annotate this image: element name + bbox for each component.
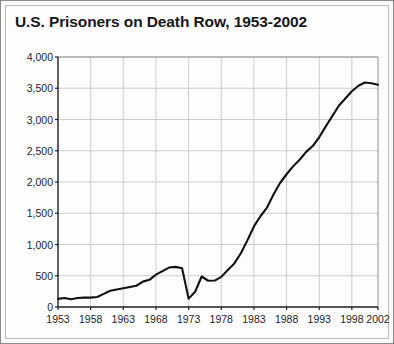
y-axis-tick-label: 1,500	[27, 207, 53, 219]
x-axis-tick-label: 1958	[79, 313, 102, 325]
x-axis-tick-label: 1988	[275, 313, 298, 325]
x-axis-tick-label: 1998	[340, 313, 363, 325]
y-axis-tick-label: 2,000	[27, 176, 53, 188]
data-line	[58, 82, 378, 299]
x-axis-tick-label: 1973	[177, 313, 200, 325]
x-axis-tick-label: 1953	[46, 313, 69, 325]
x-axis-tick-label: 1993	[308, 313, 331, 325]
grid-lines	[58, 57, 378, 307]
plot-area: 05001,0001,5002,0002,5003,0003,5004,000 …	[1, 1, 394, 344]
y-axis-tick-label: 0	[47, 301, 53, 313]
data-series-group	[58, 82, 378, 299]
y-axis-tick-label: 1,000	[27, 239, 53, 251]
x-axis-tick-label: 1968	[144, 313, 167, 325]
chart-svg	[1, 1, 394, 344]
x-axis-tick-label: 1978	[210, 313, 233, 325]
x-axis-tick-label: 2002	[366, 313, 389, 325]
y-axis-tick-label: 4,000	[27, 51, 53, 63]
y-axis-tick-label: 2,500	[27, 145, 53, 157]
x-axis-tick-label: 1963	[112, 313, 135, 325]
y-axis-tick-label: 3,500	[27, 82, 53, 94]
y-axis-tick-label: 500	[35, 270, 53, 282]
chart-figure: U.S. Prisoners on Death Row, 1953-2002 0…	[0, 0, 394, 344]
tick-marks	[55, 57, 378, 310]
x-axis-tick-label: 1983	[242, 313, 265, 325]
y-axis-tick-label: 3,000	[27, 114, 53, 126]
